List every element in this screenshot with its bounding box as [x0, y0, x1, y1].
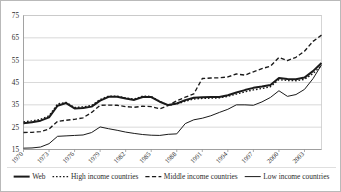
- line-chart: 15253545556575 1970197319761979198219851…: [1, 1, 341, 192]
- y-tick-label: 35: [12, 101, 20, 109]
- x-tick-label: 1997: [240, 150, 255, 165]
- x-tick-label: 2003: [291, 150, 306, 165]
- x-tick-label: 1988: [163, 150, 178, 165]
- series-line: [24, 63, 322, 123]
- x-tick-label: 1982: [112, 150, 126, 164]
- gridlines: [24, 16, 322, 150]
- x-axis-tick-labels: 1970197319761979198219851988199119941997…: [10, 150, 306, 165]
- chart-figure: 15253545556575 1970197319761979198219851…: [0, 0, 341, 192]
- legend-item-label: Low income countries: [263, 172, 329, 181]
- y-axis-tick-labels: 15253545556575: [12, 12, 20, 154]
- series-line: [24, 35, 322, 132]
- y-tick-label: 45: [12, 79, 20, 87]
- data-series-group: [24, 35, 322, 148]
- x-tick-label: 1994: [214, 150, 229, 165]
- x-tick-label: 1985: [138, 150, 153, 165]
- series-line: [24, 66, 322, 122]
- x-tick-label: 1976: [61, 150, 76, 165]
- y-tick-label: 65: [12, 34, 20, 42]
- legend-item-label: High income countries: [71, 172, 138, 181]
- x-tick-label: 1991: [189, 150, 203, 164]
- legend-item-label: Web: [32, 172, 46, 181]
- series-line: [24, 65, 322, 148]
- chart-legend: WebHigh income countriesMiddle income co…: [7, 168, 336, 182]
- y-tick-label: 75: [12, 12, 20, 20]
- y-tick-label: 55: [12, 57, 20, 65]
- x-tick-label: 1973: [35, 150, 50, 165]
- y-tick-label: 25: [12, 124, 20, 132]
- x-tick-label: 2000: [265, 150, 280, 165]
- x-tick-label: 1979: [87, 150, 102, 165]
- x-axis-tick-marks: [24, 150, 305, 153]
- legend-item-label: Middle income countries: [164, 172, 238, 181]
